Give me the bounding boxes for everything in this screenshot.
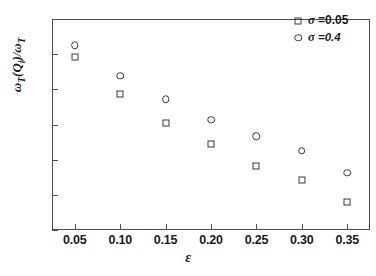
x-axis-tick-label: 0.30 (277, 233, 327, 247)
caption-sliver (0, 270, 376, 276)
data-point-circle (253, 132, 261, 140)
data-point-square (117, 90, 124, 97)
data-point-square (162, 119, 169, 126)
x-axis-tick-label: 0.20 (186, 233, 236, 247)
data-point-circle (162, 95, 170, 103)
x-axis-tick-label: 0.10 (95, 233, 145, 247)
x-axis-tick-label: 0.25 (231, 233, 281, 247)
data-point-circle (116, 72, 124, 80)
legend: σ =0.05σ =0.4 (288, 14, 348, 44)
legend-marker-square-icon (288, 14, 308, 27)
x-axis-tick-label: 0.15 (141, 233, 191, 247)
y-axis-title: ωT(Qi)/ωT (9, 0, 27, 145)
legend-label: σ =0.05 (308, 13, 348, 28)
data-point-square (298, 176, 305, 183)
x-axis-tick-label: 0.05 (50, 233, 100, 247)
data-point-circle (71, 42, 79, 50)
x-axis-tick-label: 0.35 (322, 233, 372, 247)
data-point-circle (207, 116, 215, 124)
data-point-square (253, 162, 260, 169)
y-axis-tick (52, 230, 58, 231)
scatter-plot-figure: 0.70.60.50.40.30.20.1 0.050.100.150.200.… (0, 0, 376, 276)
data-point-square (208, 140, 215, 147)
legend-square-glyph (295, 17, 302, 24)
legend-item: σ =0.05 (288, 14, 348, 27)
data-point-square (71, 53, 78, 60)
legend-item: σ =0.4 (288, 31, 348, 44)
data-point-circle (298, 147, 306, 155)
legend-marker-circle-icon (288, 31, 308, 44)
legend-label: σ =0.4 (308, 30, 341, 45)
data-point-square (344, 198, 351, 205)
legend-circle-glyph (294, 34, 302, 42)
plot-data-area (52, 19, 370, 230)
data-point-circle (344, 169, 352, 177)
x-axis-title: ε (0, 250, 376, 266)
